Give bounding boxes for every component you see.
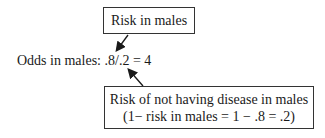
odds-equation: Odds in males: .8/.2 = 4 <box>17 52 151 69</box>
risk-not-disease-title: Risk of not having disease in males <box>105 91 313 108</box>
risk-not-disease-box: Risk of not having disease in males (1− … <box>104 86 314 129</box>
arrow-norisk-to-denominator <box>129 70 143 86</box>
arrow-risk-to-numerator <box>117 35 128 50</box>
risk-in-males-label: Risk in males <box>111 13 187 28</box>
risk-not-disease-formula: (1− risk in males = 1 − .8 = .2) <box>105 108 313 125</box>
risk-in-males-box: Risk in males <box>103 7 195 34</box>
